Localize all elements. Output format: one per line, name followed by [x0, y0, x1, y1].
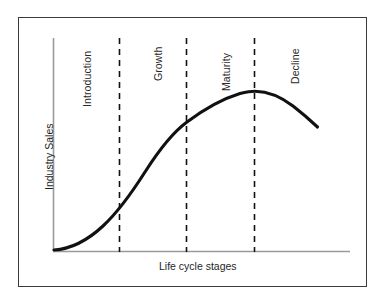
stage-label-maturity: Maturity: [221, 53, 232, 91]
product-life-cycle-figure: Industry Sales Introduction Growth Matur…: [0, 0, 380, 303]
stage-label-decline: Decline: [290, 48, 301, 84]
y-axis-label: Industry Sales: [44, 123, 55, 190]
stage-label-introduction: Introduction: [82, 51, 93, 107]
stage-label-growth: Growth: [153, 47, 164, 81]
plot-area: [0, 0, 380, 303]
x-axis-label: Life cycle stages: [159, 261, 237, 272]
